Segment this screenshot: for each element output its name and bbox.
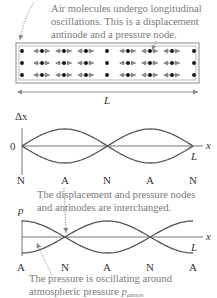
oscillating-molecule	[84, 73, 88, 77]
bottom-caption-line-1: The pressure is oscillating around	[29, 273, 173, 284]
tube-length-label: L	[103, 94, 110, 106]
pressure-node-labels: A N A N A	[17, 261, 197, 273]
pres-label-2: A	[103, 261, 111, 273]
displacement-node-labels: N A N A N	[17, 174, 197, 186]
tube-caption-line-3: antinode and a pressure node.	[51, 29, 177, 40]
fixed-molecule	[105, 49, 109, 53]
tube-caption-line-1: Air molecules undergo longitudinal	[51, 3, 202, 14]
displacement-y-label: Δx	[15, 110, 28, 122]
p-atmos-subscript: atmos	[127, 291, 144, 298]
oscillating-molecule	[62, 73, 66, 77]
pres-label-3: N	[146, 261, 154, 273]
fixed-molecule	[20, 73, 24, 77]
oscillating-molecule	[84, 61, 88, 65]
tube	[16, 43, 199, 83]
disp-label-0: N	[17, 174, 25, 186]
standing-wave-diagram: Air molecules undergo longitudinal oscil…	[0, 0, 217, 298]
oscillating-molecule	[126, 73, 130, 77]
displacement-graph: Δx x 0 L N A N A N	[10, 110, 211, 186]
leader-line-left	[20, 2, 34, 40]
oscillating-molecule	[62, 61, 66, 65]
bottom-caption-line-2: atmospheric pressure patmos	[29, 286, 144, 298]
oscillating-molecule	[148, 49, 152, 53]
middle-caption-line-1: The displacement and pressure nodes	[37, 189, 195, 200]
fixed-molecule	[192, 73, 196, 77]
oscillating-molecule	[62, 49, 66, 53]
oscillating-molecule	[170, 73, 174, 77]
tube-caption: Air molecules undergo longitudinal oscil…	[51, 3, 202, 40]
oscillating-molecule	[148, 61, 152, 65]
pressure-x-label: x	[205, 230, 211, 242]
disp-label-1: A	[61, 174, 69, 186]
disp-label-4: N	[189, 174, 197, 186]
disp-label-2: N	[103, 174, 111, 186]
oscillating-molecule	[170, 61, 174, 65]
pressure-end-label: L	[190, 241, 197, 253]
fixed-molecule	[105, 61, 109, 65]
fixed-molecule	[20, 61, 24, 65]
fixed-molecule	[192, 49, 196, 53]
oscillating-molecule	[126, 49, 130, 53]
leader-line-antinode	[152, 41, 156, 50]
displacement-x-label: x	[205, 139, 211, 151]
fixed-molecule	[20, 49, 24, 53]
tube-caption-line-2: oscillations. This is a displacement	[51, 16, 199, 27]
pres-label-4: A	[189, 261, 197, 273]
bottom-caption-prefix: atmospheric pressure	[29, 286, 121, 297]
middle-caption-line-2: and antinodes are interchanged.	[37, 202, 171, 213]
pressure-y-label: p	[17, 204, 24, 216]
fixed-molecule	[105, 73, 109, 77]
oscillating-molecule	[40, 61, 44, 65]
oscillating-molecule	[84, 49, 88, 53]
displacement-end-label: L	[190, 150, 197, 162]
disp-label-3: A	[146, 174, 154, 186]
pres-label-1: N	[61, 261, 69, 273]
molecules	[20, 49, 196, 77]
oscillating-molecule	[40, 49, 44, 53]
fixed-molecule	[192, 61, 196, 65]
oscillating-molecule	[40, 73, 44, 77]
displacement-origin-label: 0	[10, 140, 16, 152]
pres-label-0: A	[17, 261, 25, 273]
oscillating-molecule	[148, 73, 152, 77]
oscillating-molecule	[170, 49, 174, 53]
oscillating-molecule	[126, 61, 130, 65]
